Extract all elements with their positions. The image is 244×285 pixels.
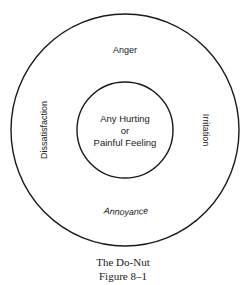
do-nut-diagram: Anger Dissatisfaction Irritation Annoyan…	[0, 0, 244, 285]
label-irritation: Irritation	[201, 114, 211, 147]
figure-title: The Do-Nut	[1, 255, 244, 269]
label-annoyance-path: Annoyance	[102, 205, 148, 217]
inner-line-2: or	[121, 125, 129, 136]
label-anger: Anger	[113, 45, 137, 55]
label-dissatisfaction: Dissatisfaction	[39, 101, 49, 159]
inner-line-1: Any Hurting	[100, 113, 150, 124]
inner-line-3: Painful Feeling	[94, 137, 157, 148]
do-nut-figure: Anger Dissatisfaction Irritation Annoyan…	[0, 0, 244, 285]
label-annoyance: Annoyance	[102, 205, 148, 217]
figure-number: Figure 8–1	[1, 269, 244, 283]
